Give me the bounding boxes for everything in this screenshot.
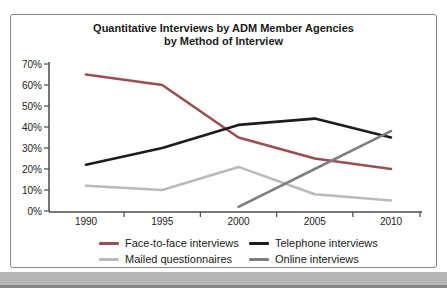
x-tick-label: 2010 (380, 216, 403, 227)
legend-label: Telephone interviews (275, 237, 378, 249)
line-swatch-icon (99, 258, 119, 261)
x-tick-label: 1995 (151, 216, 174, 227)
y-tick-label: 30% (22, 143, 42, 154)
y-tick-label: 0% (28, 206, 43, 217)
y-tick-label: 10% (22, 185, 42, 196)
series-line-mailed-questionnaires (86, 167, 391, 201)
line-chart: 0%10%20%30%40%50%60%70%19901995200020052… (11, 15, 436, 237)
line-swatch-icon (99, 242, 119, 245)
y-tick-label: 40% (22, 122, 42, 133)
line-swatch-icon (249, 242, 269, 245)
y-tick-label: 50% (22, 101, 42, 112)
y-tick-label: 60% (22, 80, 42, 91)
legend-label: Mailed questionnaires (125, 253, 232, 265)
y-tick-label: 20% (22, 164, 42, 175)
y-tick-label: 70% (22, 59, 42, 70)
legend-item-mailed: Mailed questionnaires (99, 252, 249, 266)
line-swatch-icon (249, 258, 269, 261)
page-bottom-bar (0, 272, 447, 288)
legend-label: Online interviews (275, 253, 359, 265)
page-root: Quantitative Interviews by ADM Member Ag… (0, 0, 447, 288)
series-line-telephone-interviews (86, 119, 391, 165)
legend-item-online: Online interviews (249, 252, 378, 266)
chart-panel: Quantitative Interviews by ADM Member Ag… (10, 14, 437, 268)
legend-item-telephone: Telephone interviews (249, 236, 378, 250)
chart-legend: Face-to-face interviews Telephone interv… (99, 236, 378, 266)
legend-item-face-to-face: Face-to-face interviews (99, 236, 249, 250)
x-tick-label: 2005 (304, 216, 327, 227)
legend-label: Face-to-face interviews (125, 237, 239, 249)
x-tick-label: 1990 (75, 216, 98, 227)
x-tick-label: 2000 (227, 216, 250, 227)
